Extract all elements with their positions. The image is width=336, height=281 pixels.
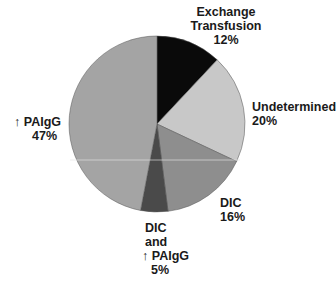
label-dic-pct: 16% <box>220 210 245 224</box>
pie-slice-paigg <box>69 36 157 210</box>
label-paigg: ↑ PAIgG 47% <box>14 115 64 143</box>
label-exchange-pct: 12% <box>176 33 276 47</box>
label-undetermined-line1: Undetermined <box>252 100 336 114</box>
label-exchange-transfusion: Exchange Transfusion 12% <box>176 5 276 47</box>
label-dic-paigg-line2: and <box>142 235 189 249</box>
pie-slices <box>69 36 245 212</box>
label-dic-paigg-line1: DIC <box>142 221 189 235</box>
label-dic-line1: DIC <box>220 196 245 210</box>
label-exchange-line1: Exchange <box>176 5 276 19</box>
label-paigg-line1: ↑ PAIgG <box>14 115 64 129</box>
label-dic-paigg-line3: ↑ PAIgG <box>142 249 189 263</box>
label-undetermined: Undetermined 20% <box>252 100 336 128</box>
label-dic-paigg-pct: 5% <box>142 263 189 277</box>
label-paigg-pct: 47% <box>14 129 64 143</box>
label-exchange-line2: Transfusion <box>176 19 276 33</box>
label-dic: DIC 16% <box>220 196 245 224</box>
label-undetermined-pct: 20% <box>252 114 336 128</box>
label-dic-and-paigg: DIC and ↑ PAIgG 5% <box>142 221 189 277</box>
